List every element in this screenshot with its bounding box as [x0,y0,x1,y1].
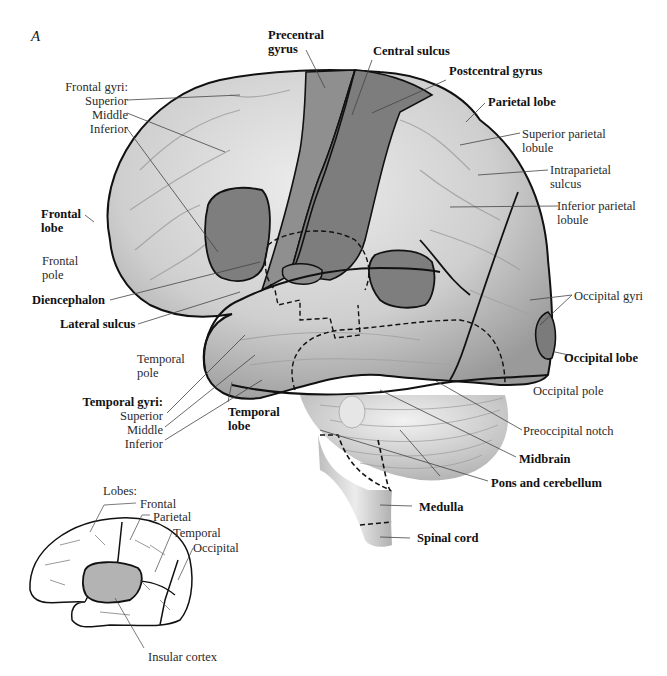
label-occipital-gyri: Occipital gyri [574,289,643,303]
label-line: Superior [60,409,163,423]
label-midbrain: Midbrain [519,452,570,466]
label-line: lobe [228,419,280,433]
label-precentral-gyrus: Precentral gyrus [268,28,324,56]
label-line: Inferior [60,437,163,451]
label-line: gyrus [268,42,324,56]
label-line: Middle [60,423,163,437]
label-pons-and-cerebellum: Pons and cerebellum [491,476,602,490]
label-line: Frontal [41,207,81,221]
label-frontal-lobe: Frontal lobe [41,207,81,235]
label-line: sulcus [550,177,611,191]
label-preoccipital-notch: Preoccipital notch [523,424,614,438]
label-line: Middle [40,108,128,122]
label-spinal-cord: Spinal cord [417,531,478,545]
inset-label-parietal: Parietal [153,510,191,524]
label-inferior-parietal-lobule: Inferior parietal lobule [557,199,636,227]
inset-label-frontal: Frontal [140,497,176,511]
label-line: Superior [40,94,128,108]
label-line: Precentral [268,28,324,42]
label-line: Inferior [40,122,128,136]
broca-area [205,188,270,281]
label-temporal-gyri: Temporal gyri: Superior Middle Inferior [60,395,163,451]
cerebrum [108,70,556,399]
wernicke-area [369,250,434,307]
label-line: pole [42,268,78,282]
label-parietal-lobe: Parietal lobe [488,95,556,109]
label-line: Frontal [42,254,78,268]
label-frontal-pole: Frontal pole [42,254,78,282]
label-line: Intraparietal [550,163,611,177]
label-line: Temporal [137,352,185,366]
label-line: Inferior parietal [557,199,636,213]
label-temporal-lobe: Temporal lobe [228,405,280,433]
panel-letter: A [31,28,40,45]
label-occipital-pole: Occipital pole [533,384,603,398]
label-intraparietal-sulcus: Intraparietal sulcus [550,163,611,191]
label-line: lobule [522,141,606,155]
label-frontal-gyri: Frontal gyri: Superior Middle Inferior [40,80,128,136]
label-medulla: Medulla [419,500,463,514]
inset-label-occipital: Occipital [193,541,239,555]
label-line: Temporal gyri: [60,395,163,409]
label-line: Frontal gyri: [40,80,128,94]
label-temporal-pole: Temporal pole [137,352,185,380]
label-line: Temporal [228,405,280,419]
label-line: lobe [41,221,81,235]
label-occipital-lobe: Occipital lobe [564,351,638,365]
label-central-sulcus: Central sulcus [373,44,450,58]
inset-header: Lobes: [103,484,137,498]
label-line: lobule [557,213,636,227]
label-lateral-sulcus: Lateral sulcus [60,317,135,331]
inset-brain [30,503,193,648]
label-diencephalon: Diencephalon [32,293,105,307]
inset-label-temporal: Temporal [173,526,221,540]
label-postcentral-gyrus: Postcentral gyrus [449,64,542,78]
label-superior-parietal-lobule: Superior parietal lobule [522,127,606,155]
label-line: pole [137,366,185,380]
inset-label-insular-cortex: Insular cortex [148,650,217,664]
label-line: Superior parietal [522,127,606,141]
